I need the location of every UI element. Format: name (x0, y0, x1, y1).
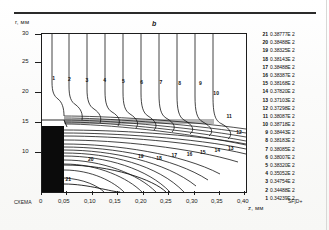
curve-label: 11 (227, 114, 232, 119)
y-tick (35, 152, 41, 153)
legend-index: 1 (258, 195, 270, 201)
legend-row: 180.38143E 2 (258, 56, 326, 64)
curve-label: 4 (103, 78, 106, 83)
legend-row: 10.34239E 2 (258, 195, 326, 203)
legend-index: 15 (258, 80, 270, 86)
x-tick (41, 191, 42, 195)
legend-index: 2 (258, 187, 270, 193)
x-tick-label-0: 0 (39, 198, 42, 204)
legend-index: 8 (258, 137, 270, 143)
curve-label: 15 (200, 150, 206, 155)
x-tick-label-010: 0,10 (84, 198, 96, 204)
y-tick-label-20: 20 (22, 88, 29, 94)
legend-row: 190.38325E 2 (258, 47, 326, 55)
legend-index: 11 (258, 113, 270, 119)
curve-label: 20 (88, 157, 94, 162)
y-tick-label-25: 25 (22, 58, 29, 64)
x-tick (143, 191, 144, 195)
legend-index: 4 (258, 170, 270, 176)
x-tick-label-005: 0,05 (58, 198, 70, 204)
y-tick (35, 34, 41, 35)
curve-label: 18 (156, 156, 162, 161)
curve-label: 13 (228, 146, 234, 151)
curve-label: 6 (140, 80, 143, 85)
curve-label: 9 (199, 81, 202, 86)
legend-value: 0.37103E 2 (270, 97, 295, 103)
legend-value: 0.38087E 2 (270, 113, 295, 119)
legend-index: 6 (258, 154, 270, 160)
y-axis-label: r, мм (15, 19, 29, 25)
legend-value: 0.38143E 2 (270, 56, 295, 62)
legend-row: 130.37103E 2 (258, 97, 326, 105)
legend-row: 140.37820E 2 (258, 88, 326, 96)
legend-row: 80.38183E 2 (258, 137, 326, 145)
legend-index: 17 (258, 64, 270, 70)
y-tick-label-15: 15 (22, 118, 29, 124)
legend-value: 0.34488E 2 (270, 187, 295, 193)
legend-index: 12 (258, 105, 270, 111)
x-axis-label: z, мм (248, 205, 264, 211)
legend-value: 0.38488E 2 (270, 64, 295, 70)
legend-index: 7 (258, 146, 270, 152)
scheme-annotation: СХЕМА (14, 200, 32, 205)
curve-label: 17 (172, 153, 178, 158)
curve-label: 1 (52, 76, 55, 81)
legend-value: 0.34239E 2 (270, 195, 295, 201)
legend-value: 0.38183E 2 (270, 137, 295, 143)
legend-row: 210.38777E 2 (258, 31, 326, 39)
legend-value: 0.38168E 2 (270, 80, 295, 86)
figure-page: b r, мм (0, 0, 329, 230)
legend-row: 50.38320E 2 (258, 162, 326, 170)
legend-value: 0.38488E 2 (270, 39, 295, 45)
legend-value: 0.38718E 2 (270, 121, 295, 127)
legend-row: 170.38488E 2 (258, 64, 326, 72)
curve-label: 19 (138, 154, 144, 159)
legend-row: 100.38718E 2 (258, 121, 326, 129)
legend-value: 0.38085E 2 (270, 146, 295, 152)
curve-label: 21 (65, 177, 71, 182)
curve-label: 7 (160, 80, 163, 85)
x-tick-label-015: 0,15 (109, 198, 121, 204)
x-tick (117, 191, 118, 195)
legend-value: 0.34754E 2 (270, 178, 295, 184)
legend-index: 21 (258, 31, 270, 37)
curve-label: 8 (178, 81, 181, 86)
x-tick (194, 191, 195, 195)
legend-index: 18 (258, 56, 270, 62)
legend-index: 3 (258, 178, 270, 184)
legend-value: 0.38387E 2 (270, 72, 295, 78)
legend-row: 20.34488E 2 (258, 187, 326, 195)
x-tick-label-035: 0,35 (211, 198, 223, 204)
legend-value: 0.37820E 2 (270, 88, 295, 94)
x-tick (66, 191, 67, 195)
x-tick-label-020: 0,20 (135, 198, 147, 204)
curve-label: 3 (85, 78, 88, 83)
x-tick-label-025: 0,25 (160, 198, 172, 204)
legend-value: 0.35052E 2 (270, 170, 295, 176)
y-tick-label-10: 10 (22, 148, 29, 154)
legend-value: 0.38443E 2 (270, 129, 295, 135)
legend-row: 40.35052E 2 (258, 170, 326, 178)
contour-lines (42, 34, 246, 192)
plot-area: 212019181716151413121110987654321 (41, 33, 247, 193)
legend-row: 120.37298E 2 (258, 105, 326, 113)
x-tick-label-030: 0,30 (186, 198, 198, 204)
curve-label: 14 (214, 148, 220, 153)
page-edge-line (326, 0, 327, 230)
curve-label: 10 (213, 91, 219, 96)
curve-label: 16 (187, 152, 193, 157)
top-rule (14, 12, 316, 14)
x-tick (92, 191, 93, 195)
legend-row: 150.38168E 2 (258, 80, 326, 88)
y-tick (35, 62, 41, 63)
x-tick (244, 191, 245, 195)
y-tick-label-30: 30 (22, 30, 29, 36)
legend-index: 14 (258, 88, 270, 94)
legend-row: 110.38087E 2 (258, 113, 326, 121)
legend-value: 0.38325E 2 (270, 47, 295, 53)
legend-row: 160.38387E 2 (258, 72, 326, 80)
x-tick (219, 191, 220, 195)
x-tick (168, 191, 169, 195)
y-tick (35, 92, 41, 93)
panel-letter: b (152, 20, 156, 27)
